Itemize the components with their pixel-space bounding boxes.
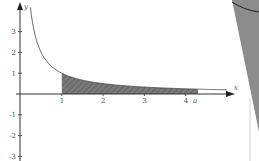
x-tick-label: 3 (142, 97, 146, 105)
x-axis-label: x (234, 84, 238, 92)
y-axis-label: y (23, 3, 29, 11)
x-tick-label: 1 (60, 97, 64, 105)
y-axis: y 321-1-2-3 (9, 2, 29, 161)
x-tick-label: 2 (101, 97, 105, 105)
y-tick-label: 2 (12, 49, 16, 57)
y-tick-label: -1 (9, 111, 16, 119)
bound-a-label: a (193, 97, 197, 105)
background-wedge (232, 0, 259, 161)
y-tick-label: -3 (9, 153, 16, 161)
shaded-area-region (62, 73, 198, 94)
y-tick-label: 3 (12, 28, 16, 36)
y-tick-label: -2 (9, 132, 16, 140)
function-curve (30, 7, 227, 90)
y-tick-label: 1 (12, 70, 16, 78)
function-plot: y 321-1-2-3 x 1234 a (0, 0, 259, 161)
y-axis-arrow-icon (17, 2, 23, 10)
x-tick-label: 4 (184, 97, 189, 105)
